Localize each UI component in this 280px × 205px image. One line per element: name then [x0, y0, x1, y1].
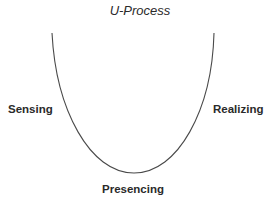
label-realizing: Realizing — [213, 103, 263, 115]
label-sensing: Sensing — [8, 103, 53, 115]
label-presencing: Presencing — [102, 183, 164, 195]
u-process-diagram: U-Process Sensing Realizing Presencing — [0, 0, 280, 205]
